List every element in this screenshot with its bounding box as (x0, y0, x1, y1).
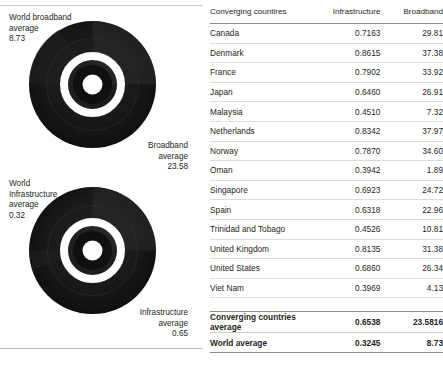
cell-country: France (210, 63, 314, 83)
table-row[interactable]: United Kingdom0.813531.38 (210, 239, 443, 259)
table-row[interactable]: Viet Nam0.39694.13 (210, 278, 443, 298)
summary-infrastructure: 0.3245 (314, 333, 381, 353)
data-table-container: Converging countires Infrastructure Broa… (210, 0, 443, 353)
summary-row: World average0.32458.73 (210, 333, 443, 353)
cell-broadband: 22.96 (380, 200, 443, 220)
cell-infrastructure: 0.7163 (314, 24, 381, 44)
table-row[interactable]: United States0.686026.34 (210, 259, 443, 279)
table-body: Canada0.716329.81Denmark0.861537.38Franc… (210, 24, 443, 298)
cell-broadband: 10.81 (380, 219, 443, 239)
table-header-row: Converging countires Infrastructure Broa… (210, 0, 443, 24)
cell-broadband: 1.89 (380, 161, 443, 181)
cell-infrastructure: 0.6460 (314, 82, 381, 102)
table-row[interactable]: Japan0.646026.91 (210, 82, 443, 102)
broadband-group-average-title: Broadband (100, 141, 188, 152)
cell-country: Netherlands (210, 121, 314, 141)
cell-infrastructure: 0.3942 (314, 161, 381, 181)
infrastructure-world-average-value: 0.32 (9, 211, 57, 222)
table-row[interactable]: Denmark0.861537.38 (210, 43, 443, 63)
cell-infrastructure: 0.6860 (314, 259, 381, 279)
cell-broadband: 31.38 (380, 239, 443, 259)
table-row[interactable]: Netherlands0.834237.97 (210, 121, 443, 141)
broadband-world-average-title: World broadband (9, 13, 72, 24)
infrastructure-world-average-label: World Infrastructure average 0.32 (9, 179, 57, 221)
broadband-group-average-subtitle: average (100, 152, 188, 163)
cell-country: Japan (210, 82, 314, 102)
converging-countries-table: Converging countires Infrastructure Broa… (210, 0, 443, 353)
table-row[interactable]: Malaysia0.45107.32 (210, 102, 443, 122)
infrastructure-group-average-label: Infrastructure average 0.65 (95, 308, 188, 340)
summary-label: World average (210, 333, 314, 353)
cell-broadband: 34.60 (380, 141, 443, 161)
cell-country: Spain (210, 200, 314, 220)
cell-country: United States (210, 259, 314, 279)
infrastructure-group-average-subtitle: average (95, 319, 188, 330)
column-header-country[interactable]: Converging countires (210, 0, 314, 24)
cell-infrastructure: 0.3969 (314, 278, 381, 298)
cell-broadband: 26.91 (380, 82, 443, 102)
cell-country: Malaysia (210, 102, 314, 122)
cell-country: Trinidad and Tobago (210, 219, 314, 239)
cell-country: Denmark (210, 43, 314, 63)
table-row[interactable]: Oman0.39421.89 (210, 161, 443, 181)
spacer-row (210, 298, 443, 312)
table-row[interactable]: France0.790233.92 (210, 63, 443, 83)
broadband-world-average-value: 8.73 (9, 34, 72, 45)
table-row[interactable]: Norway0.787034.60 (210, 141, 443, 161)
table-row[interactable]: Trinidad and Tobago0.452610.81 (210, 219, 443, 239)
summary-label: Converging countries average (210, 312, 314, 333)
table-summary: Converging countries average0.653823.581… (210, 312, 443, 353)
cell-infrastructure: 0.6923 (314, 180, 381, 200)
cell-infrastructure: 0.7902 (314, 63, 381, 83)
cell-broadband: 37.38 (380, 43, 443, 63)
bottom-divider (0, 348, 203, 349)
cell-broadband: 29.81 (380, 24, 443, 44)
column-header-broadband[interactable]: Broadband (380, 0, 443, 24)
table-row[interactable]: Canada0.716329.81 (210, 24, 443, 44)
column-header-infrastructure[interactable]: Infrastructure (314, 0, 381, 24)
infrastructure-world-average-title2: Infrastructure (9, 190, 57, 201)
infrastructure-group-average-title: Infrastructure (95, 308, 188, 319)
cell-infrastructure: 0.4510 (314, 102, 381, 122)
cell-broadband: 7.32 (380, 102, 443, 122)
cell-country: Singapore (210, 180, 314, 200)
cell-infrastructure: 0.8342 (314, 121, 381, 141)
cell-broadband: 24.72 (380, 180, 443, 200)
infrastructure-group-average-value: 0.65 (95, 329, 188, 340)
cell-country: Canada (210, 24, 314, 44)
cell-country: Oman (210, 161, 314, 181)
table-row[interactable]: Spain0.631822.96 (210, 200, 443, 220)
cell-country: Norway (210, 141, 314, 161)
table-spacer (210, 298, 443, 312)
cell-broadband: 26.34 (380, 259, 443, 279)
cell-broadband: 4.13 (380, 278, 443, 298)
charts-column: World broadband average 8.73 Broadband a… (0, 0, 205, 365)
cell-infrastructure: 0.8615 (314, 43, 381, 63)
cell-country: United Kingdom (210, 239, 314, 259)
broadband-group-average-value: 23.58 (100, 162, 188, 173)
cell-broadband: 37.97 (380, 121, 443, 141)
summary-row: Converging countries average0.653823.581… (210, 312, 443, 333)
summary-broadband: 8.73 (380, 333, 443, 353)
table-row[interactable]: Singapore0.692324.72 (210, 180, 443, 200)
cell-infrastructure: 0.6318 (314, 200, 381, 220)
cell-infrastructure: 0.8135 (314, 239, 381, 259)
summary-infrastructure: 0.6538 (314, 312, 381, 333)
broadband-group-average-label: Broadband average 23.58 (100, 141, 188, 173)
cell-country: Viet Nam (210, 278, 314, 298)
summary-broadband: 23.5816 (380, 312, 443, 333)
cell-infrastructure: 0.7870 (314, 141, 381, 161)
infrastructure-world-average-title: World (9, 179, 57, 190)
broadband-world-average-label: World broadband average 8.73 (9, 13, 72, 45)
infrastructure-world-average-subtitle: average (9, 200, 57, 211)
cell-broadband: 33.92 (380, 63, 443, 83)
cell-infrastructure: 0.4526 (314, 219, 381, 239)
table-header: Converging countires Infrastructure Broa… (210, 0, 443, 24)
broadband-world-average-subtitle: average (9, 24, 72, 35)
